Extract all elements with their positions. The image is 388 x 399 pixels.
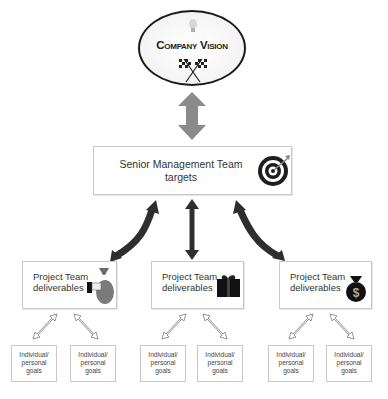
project-label-line1: Project Team — [162, 271, 217, 282]
project-team-node-2: Project Team deliverables — [151, 261, 244, 309]
project-label-line1: Project Team — [290, 271, 345, 282]
individual-line2: personal — [12, 359, 56, 367]
individual-line1: Individual/ — [327, 351, 371, 359]
checkered-flags-icon — [178, 55, 208, 83]
individual-line3: goals — [327, 367, 371, 375]
project-label-line2: deliverables — [33, 282, 88, 293]
individual-line3: goals — [141, 367, 185, 375]
individual-goals-node-2: Individual/ personal goals — [70, 345, 116, 382]
project-label-line1: Project Team — [33, 271, 88, 282]
senior-project-arrows — [116, 205, 278, 256]
individual-line1: Individual/ — [269, 351, 313, 359]
senior-label: Senior Management Team targets — [106, 158, 256, 184]
svg-text:$: $ — [353, 286, 360, 300]
individual-line2: personal — [198, 359, 242, 367]
individual-line3: goals — [269, 367, 313, 375]
individual-line3: goals — [12, 367, 56, 375]
individual-line2: personal — [71, 359, 115, 367]
project-team-node-3: Project Team deliverables $ — [279, 261, 372, 309]
project-label-line2: deliverables — [162, 282, 217, 293]
individual-line2: personal — [141, 359, 185, 367]
individual-line3: goals — [71, 367, 115, 375]
company-vision-node: Company Vision — [138, 10, 246, 86]
individual-goals-node-5: Individual/ personal goals — [268, 345, 314, 382]
individual-goals-node-3: Individual/ personal goals — [140, 345, 186, 382]
project-individual-arrows — [33, 314, 354, 339]
senior-label-line1: Senior Management Team — [106, 158, 256, 171]
senior-management-node: Senior Management Team targets — [93, 146, 292, 195]
project-team-node-1: Project Team deliverables — [22, 261, 117, 309]
project-label: Project Team deliverables — [33, 271, 88, 293]
individual-line2: personal — [269, 359, 313, 367]
senior-label-line2: targets — [106, 171, 256, 184]
individual-goals-node-4: Individual/ personal goals — [197, 345, 243, 382]
individual-line1: Individual/ — [71, 351, 115, 359]
individual-line1: Individual/ — [198, 351, 242, 359]
vision-title: Company Vision — [140, 39, 244, 51]
lightbulb-icon — [188, 18, 198, 34]
vision-senior-arrow — [178, 92, 206, 140]
gift-box-icon — [216, 274, 242, 298]
individual-goals-node-6: Individual/ personal goals — [326, 345, 372, 382]
individual-line1: Individual/ — [12, 351, 56, 359]
individual-goals-node-1: Individual/ personal goals — [11, 345, 57, 382]
project-label-line2: deliverables — [290, 282, 345, 293]
hand-money-bag-icon — [87, 266, 115, 306]
individual-line2: personal — [327, 359, 371, 367]
target-icon — [257, 153, 291, 187]
individual-line1: Individual/ — [141, 351, 185, 359]
dollar-bag-icon: $ — [344, 274, 368, 302]
project-label: Project Team deliverables — [162, 271, 217, 293]
project-label: Project Team deliverables — [290, 271, 345, 293]
individual-line3: goals — [198, 367, 242, 375]
